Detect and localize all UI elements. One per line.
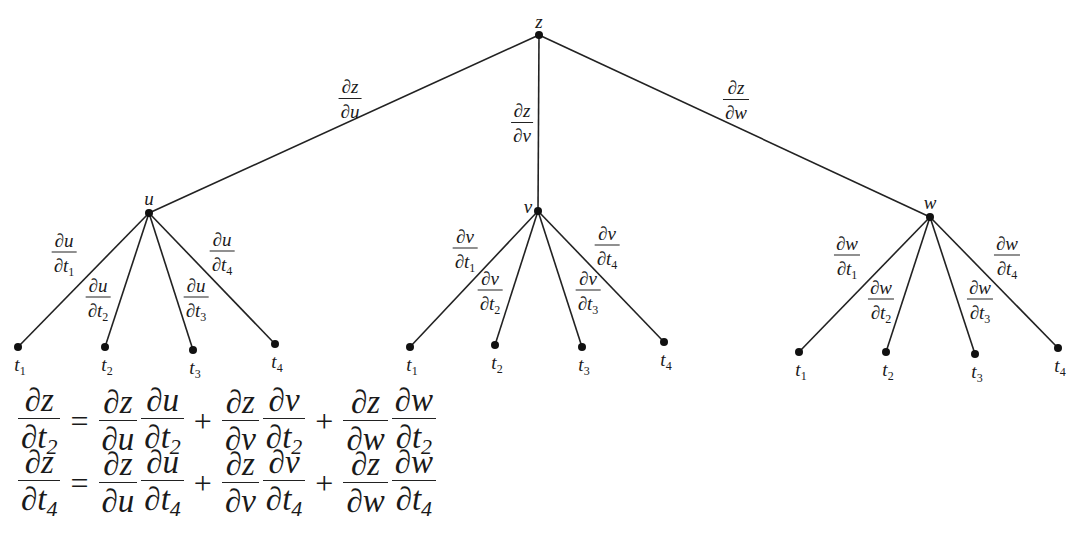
subscript: 3 <box>200 310 206 324</box>
fraction: ∂v∂t4 <box>263 446 305 520</box>
fraction: ∂u∂t4 <box>141 446 183 520</box>
fraction-bar <box>478 290 503 291</box>
denominator: ∂t <box>597 248 612 269</box>
node-v-t1 <box>406 343 414 351</box>
numerator: ∂z <box>25 382 54 418</box>
fraction: ∂z∂u <box>99 448 138 518</box>
node-label-z: z <box>535 12 542 31</box>
plus-sign: + <box>315 403 333 440</box>
node-v-t2 <box>491 341 499 349</box>
edge-label-dw-dt4: ∂w∂t4 <box>994 234 1020 281</box>
numerator: ∂v <box>579 268 597 289</box>
edge-label-dw-dt3: ∂w∂t3 <box>967 278 993 325</box>
edge-label-dz-dv: ∂z∂v <box>511 101 533 145</box>
denominator: ∂t <box>144 481 169 517</box>
numerator: ∂w <box>969 277 991 298</box>
denominator: ∂t <box>871 302 886 323</box>
numerator: ∂z <box>351 446 380 482</box>
edge-label-dv-dt3: ∂v∂t3 <box>576 269 601 316</box>
denominator: ∂t <box>396 481 421 517</box>
numerator: ∂w <box>996 233 1018 254</box>
numerator: ∂u <box>89 275 108 296</box>
fraction-bar <box>210 251 235 252</box>
leaf-label-t3: t3 <box>971 362 982 384</box>
denominator: ∂t <box>88 300 103 321</box>
subscript: 2 <box>102 310 108 324</box>
leaf-label-t4: t4 <box>271 352 282 374</box>
numerator: ∂v <box>269 444 300 480</box>
edge-z-v <box>538 35 539 211</box>
edge-label-dv-dt2: ∂v∂t2 <box>478 269 503 316</box>
edge-u-t2 <box>105 213 149 347</box>
edge-label-du-dt3: ∂u∂t3 <box>184 276 209 323</box>
denominator: ∂w <box>725 102 747 123</box>
plus-sign: + <box>194 403 212 440</box>
denominator: ∂t <box>266 481 291 517</box>
node-u-t2 <box>101 343 109 351</box>
edge-label-dv-dt4: ∂v∂t4 <box>595 224 620 271</box>
numerator: ∂u <box>146 444 179 480</box>
numerator: ∂z <box>728 77 745 98</box>
plus-sign: + <box>315 465 333 502</box>
leaf-label-t2: t2 <box>882 360 893 382</box>
node-label-w: w <box>924 193 937 212</box>
subscript: 1 <box>469 261 475 275</box>
denominator: ∂t <box>54 255 69 276</box>
node-w-t4 <box>1054 344 1062 352</box>
fraction-bar <box>994 255 1020 256</box>
leaf-subscript: 2 <box>107 364 113 378</box>
edge-label-du-dt2: ∂u∂t2 <box>86 276 111 323</box>
leaf-subscript: 3 <box>195 367 201 381</box>
denominator: ∂t <box>578 293 593 314</box>
subscript: 2 <box>885 312 891 326</box>
leaf-label-t1: t1 <box>14 355 25 377</box>
denominator: ∂t <box>970 302 985 323</box>
fraction-bar <box>868 299 894 300</box>
denominator: ∂t <box>186 300 201 321</box>
denominator: ∂u <box>341 101 360 122</box>
leaf-label-t4: t4 <box>1054 356 1065 378</box>
leaf-label-t2: t2 <box>101 355 112 377</box>
leaf-subscript: 3 <box>977 371 983 385</box>
fraction: ∂z∂v <box>222 448 259 518</box>
node-u-t1 <box>14 343 22 351</box>
fraction: ∂z∂w <box>343 448 387 518</box>
leaf-subscript: 1 <box>412 364 418 378</box>
edge-z-w <box>539 35 930 217</box>
numerator: ∂u <box>187 275 206 296</box>
leaf-subscript: 4 <box>666 359 672 373</box>
plus-sign: + <box>194 465 212 502</box>
numerator: ∂u <box>146 382 179 418</box>
numerator: ∂v <box>598 223 616 244</box>
subscript: 2 <box>494 303 500 317</box>
subscript: 4 <box>46 496 57 521</box>
fraction-bar <box>52 252 77 253</box>
subscript: 3 <box>592 303 598 317</box>
edge-label-du-dt1: ∂u∂t1 <box>52 231 77 278</box>
leaf-subscript: 4 <box>277 361 283 375</box>
numerator: ∂v <box>269 382 300 418</box>
node-u-t3 <box>189 346 197 354</box>
denominator: ∂u <box>102 483 135 519</box>
leaf-subscript: 1 <box>801 369 807 383</box>
numerator: ∂w <box>395 444 433 480</box>
denominator: ∂t <box>997 258 1012 279</box>
numerator: ∂z <box>226 446 255 482</box>
leaf-label-t2: t2 <box>491 353 502 375</box>
leaf-subscript: 1 <box>20 364 26 378</box>
subscript: 4 <box>226 264 232 278</box>
edge-label-dv-dt1: ∂v∂t1 <box>453 227 478 274</box>
subscript: 4 <box>1011 268 1017 282</box>
numerator: ∂z <box>351 384 380 420</box>
numerator: ∂w <box>870 277 892 298</box>
equation-row: ∂z∂t2=∂z∂u∂u∂t2+∂z∂v∂v∂t2+∂z∂w∂w∂t2 <box>16 390 438 452</box>
denominator: ∂t <box>455 251 470 272</box>
subscript: 1 <box>851 268 857 282</box>
fraction-bar <box>834 255 860 256</box>
equals-sign: = <box>70 465 88 502</box>
edge-label-du-dt4: ∂u∂t4 <box>210 230 235 277</box>
numerator: ∂z <box>342 76 359 97</box>
numerator: ∂z <box>514 100 531 121</box>
equals-sign: = <box>70 403 88 440</box>
fraction: ∂z∂t4 <box>18 446 60 520</box>
